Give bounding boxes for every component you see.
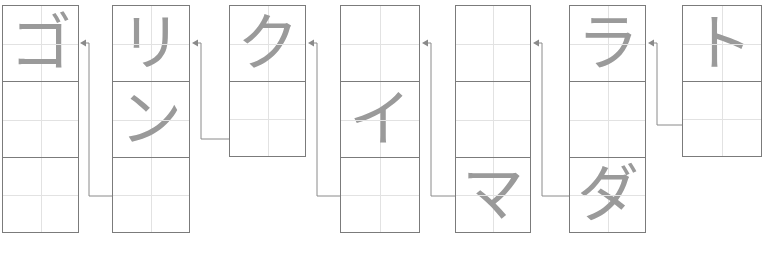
grid-cell[interactable]: ダ	[569, 157, 646, 233]
kana-glyph: ゴ	[3, 6, 78, 81]
column-5[interactable]: マ	[455, 5, 531, 233]
kana-glyph: イ	[341, 82, 419, 157]
arrow-col6-to-col5	[527, 35, 575, 204]
grid-cell[interactable]	[2, 157, 79, 233]
grid-cell[interactable]: ゴ	[2, 5, 79, 81]
column-6[interactable]: ラダ	[569, 5, 646, 233]
kana-glyph	[456, 6, 530, 81]
kana-glyph	[3, 82, 78, 157]
kana-glyph	[456, 82, 530, 157]
grid-cell[interactable]	[229, 81, 306, 157]
kana-glyph	[341, 158, 419, 232]
column-3[interactable]: ク	[229, 5, 306, 157]
column-4[interactable]: イ	[340, 5, 420, 233]
kana-glyph: ト	[683, 6, 761, 81]
kana-glyph	[3, 158, 78, 232]
kana-glyph	[113, 158, 189, 232]
kana-glyph: ン	[113, 82, 189, 157]
grid-cell[interactable]	[682, 81, 762, 157]
practice-sheet-canvas: ゴリンクイマラダト	[0, 0, 769, 269]
kana-glyph	[230, 82, 305, 156]
kana-glyph: ダ	[570, 158, 645, 232]
grid-cell[interactable]: ン	[112, 81, 190, 157]
column-2[interactable]: リン	[112, 5, 190, 233]
grid-cell[interactable]	[455, 5, 531, 81]
grid-cell[interactable]	[2, 81, 79, 157]
arrow-col3-to-col2	[186, 35, 235, 147]
grid-cell[interactable]: ト	[682, 5, 762, 81]
grid-cell[interactable]	[340, 157, 420, 233]
column-7[interactable]: ト	[682, 5, 762, 157]
grid-cell[interactable]: リ	[112, 5, 190, 81]
kana-glyph: マ	[456, 158, 530, 232]
grid-cell[interactable]: イ	[340, 81, 420, 157]
grid-cell[interactable]	[455, 81, 531, 157]
kana-glyph: リ	[113, 6, 189, 81]
grid-cell[interactable]: ラ	[569, 5, 646, 81]
kana-glyph	[341, 6, 419, 81]
kana-glyph: ク	[230, 6, 305, 81]
kana-glyph	[683, 82, 761, 156]
kana-glyph	[570, 82, 645, 157]
column-1[interactable]: ゴ	[2, 5, 79, 233]
grid-cell[interactable]: マ	[455, 157, 531, 233]
grid-cell[interactable]	[340, 5, 420, 81]
kana-glyph: ラ	[570, 6, 645, 81]
grid-cell[interactable]: ク	[229, 5, 306, 81]
grid-cell[interactable]	[569, 81, 646, 157]
grid-cell[interactable]	[112, 157, 190, 233]
